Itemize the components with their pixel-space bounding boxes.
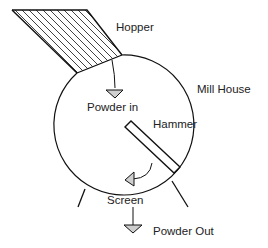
powder-in-label: Powder in xyxy=(87,102,138,114)
hammer-label: Hammer xyxy=(153,119,197,131)
right-leg xyxy=(172,181,188,207)
hopper-label: Hopper xyxy=(116,22,154,34)
screen-label: Screen xyxy=(107,195,143,207)
rotation-arrow-icon xyxy=(125,163,152,186)
hopper-shape xyxy=(0,0,167,85)
hammer-mill-diagram: Hopper Mill House Powder in Hammer Scree… xyxy=(0,0,268,248)
left-leg xyxy=(78,189,85,207)
powder-in-arrow-icon xyxy=(106,60,123,98)
mill-house-label: Mill House xyxy=(197,84,251,96)
powder-out-label: Powder Out xyxy=(153,226,214,238)
diagram-graphics xyxy=(0,0,268,248)
powder-out-arrow-icon xyxy=(124,207,142,233)
